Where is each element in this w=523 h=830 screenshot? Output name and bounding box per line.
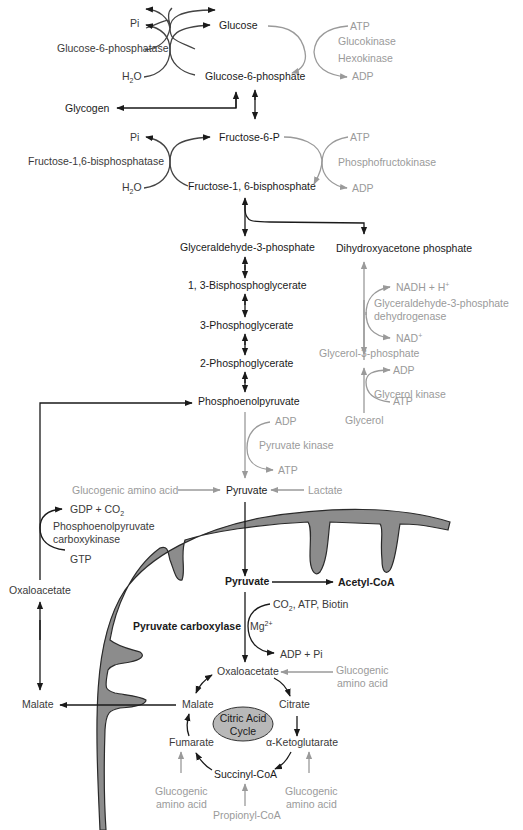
glycogen-label: Glycogen — [65, 102, 110, 114]
glucogenic-amino-acid-label-3b: amino acid — [286, 798, 337, 810]
glucogenic-amino-acid-label-1b: amino acid — [337, 677, 388, 689]
pyruvate-carboxylase-label: Pyruvate carboxylase — [133, 620, 241, 632]
bisphosphoglycerate-label: 1, 3-Bisphosphoglycerate — [188, 279, 307, 291]
glucose-6-phosphate-label: Glucose-6-phosphate — [205, 70, 306, 82]
gluconeogenesis-diagram: Pi Glucose Glucose-6-phosphatase H2O Glu… — [0, 0, 523, 830]
g3p-dehydrogenase-label-1: Glyceraldehyde-3-phosphate — [374, 297, 509, 309]
pepck-label-2: carboxykinase — [53, 533, 120, 545]
fumarate-label: Fumarate — [169, 736, 214, 748]
oxaloacetate-cytosol-label: Oxaloacetate — [9, 584, 71, 596]
adp-label-pk: ADP — [275, 415, 297, 427]
atp-label-pk: ATP — [278, 464, 298, 476]
acetyl-coa-label: Acetyl-CoA — [338, 576, 395, 588]
adp-label-gk: ADP — [393, 364, 415, 376]
glucogenic-amino-acid-label-3a: Glucogenic — [285, 785, 338, 797]
alpha-ketoglutarate-label: α-Ketoglutarate — [266, 736, 338, 748]
malate-cytosol-label: Malate — [22, 698, 54, 710]
hexokinase-label: Hexokinase — [338, 52, 393, 64]
glucogenic-amino-acid-label-2a: Glucogenic — [155, 785, 208, 797]
lactate-label: Lactate — [308, 484, 343, 496]
pyruvate-kinase-label: Pyruvate kinase — [259, 439, 334, 451]
adp-label-1: ADP — [352, 70, 374, 82]
phosphofructokinase-label: Phosphofructokinase — [338, 156, 436, 168]
h2o-label-1: H2O — [122, 70, 142, 84]
glycerol-3-phosphate-label: Glycerol-3-phosphate — [319, 347, 420, 359]
glucokinase-label: Glucokinase — [338, 35, 396, 47]
pyruvate-mito-label: Pyruvate — [225, 575, 270, 587]
citric-acid-cycle-label-1: Citric Acid — [220, 712, 267, 724]
pyruvate-cytosol-label: Pyruvate — [226, 484, 268, 496]
adp-label-2: ADP — [352, 182, 374, 194]
oxaloacetate-mito-label: Oxaloacetate — [217, 665, 279, 677]
glucogenic-amino-acid-label-2b: amino acid — [156, 798, 207, 810]
nadh-label: NADH + H+ — [396, 281, 449, 293]
malate-mito-label: Malate — [182, 698, 214, 710]
3-phosphoglycerate-label: 3-Phosphoglycerate — [200, 319, 294, 331]
pi-label-1: Pi — [130, 17, 139, 29]
atp-label-gk: ATP — [393, 395, 413, 407]
glucose-6-phosphatase-label: Glucose-6-phosphatase — [57, 42, 169, 54]
atp-label-1: ATP — [350, 20, 370, 32]
phosphoenolpyruvate-label: Phosphoenolpyruvate — [198, 395, 300, 407]
propionyl-coa-label: Propionyl-CoA — [213, 809, 281, 821]
gdp-co2-label: GDP + CO2 — [70, 503, 124, 517]
citric-acid-cycle-label-2: Cycle — [230, 725, 256, 737]
nad-label: NAD+ — [396, 332, 422, 344]
g3p-dehydrogenase-label-2: dehydrogenase — [374, 310, 447, 322]
glycerol-label: Glycerol — [345, 414, 384, 426]
glyceraldehyde-3-phosphate-label: Glyceraldehyde-3-phosphate — [180, 241, 315, 253]
2-phosphoglycerate-label: 2-Phosphoglycerate — [200, 357, 294, 369]
glucogenic-amino-acid-label: Glucogenic amino acid — [72, 484, 178, 496]
glucose-label: Glucose — [219, 19, 258, 31]
dihydroxyacetone-phosphate-label: Dihydroxyacetone phosphate — [336, 242, 472, 254]
fructose-1-6-bisphosphate-label: Fructose-1, 6-bisphosphate — [188, 180, 316, 192]
cofactors-label: CO2, ATP, Biotin — [273, 598, 348, 612]
adp-pi-label: ADP + Pi — [280, 648, 323, 660]
glucogenic-amino-acid-label-1a: Glucogenic — [336, 664, 389, 676]
succinyl-coa-label: Succinyl-CoA — [214, 768, 277, 780]
fructose-6-p-label: Fructose-6-P — [219, 131, 280, 143]
pepck-label-1: Phosphoenolpyruvate — [53, 520, 155, 532]
pi-label-2: Pi — [130, 131, 139, 143]
fructose-bisphosphatase-label: Fructose-1,6-bisphosphatase — [28, 155, 164, 167]
gtp-label: GTP — [70, 553, 92, 565]
atp-label-2: ATP — [350, 131, 370, 143]
mg-label: Mg2+ — [250, 620, 273, 632]
h2o-label-2: H2O — [122, 181, 142, 195]
citrate-label: Citrate — [279, 698, 310, 710]
